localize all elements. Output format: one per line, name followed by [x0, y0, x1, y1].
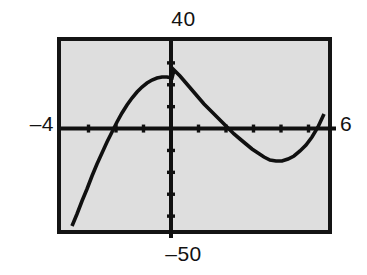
- calculator-graph-figure: 40 ‒4 6 ‒50: [0, 0, 367, 275]
- axes-group: [61, 41, 336, 238]
- x-min-label: ‒4: [14, 113, 54, 134]
- x-max-label: 6: [340, 113, 366, 134]
- y-min-label: ‒50: [0, 243, 367, 264]
- y-max-label: 40: [0, 8, 367, 29]
- function-curve: [72, 59, 333, 226]
- axis-ticks-group: [89, 63, 309, 216]
- plot-canvas: [61, 41, 336, 238]
- calculator-screen: [57, 37, 332, 234]
